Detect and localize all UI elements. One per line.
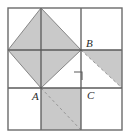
vertex-label-C: C — [87, 89, 95, 101]
geometry-figure: B A C — [0, 0, 128, 136]
vertex-label-B: B — [86, 37, 93, 49]
vertex-label-A: A — [31, 90, 39, 102]
geometry-figure-container: B A C — [0, 0, 128, 136]
